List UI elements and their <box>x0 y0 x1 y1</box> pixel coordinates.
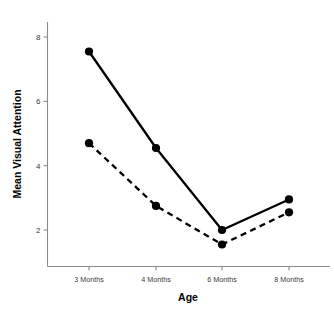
y-tick-label: 8 <box>36 33 41 42</box>
x-tick-label: 6 Months <box>207 275 237 284</box>
data-point-marker <box>152 202 160 210</box>
chart-canvas: 2468 3 Months4 Months6 Months8 Months Me… <box>0 0 334 317</box>
y-axis-tick-labels: 2468 <box>36 33 41 235</box>
x-axis-tick-labels: 3 Months4 Months6 Months8 Months <box>74 275 304 284</box>
x-axis-ticks <box>89 267 289 271</box>
x-tick-label: 3 Months <box>74 275 104 284</box>
line-chart: 2468 3 Months4 Months6 Months8 Months Me… <box>0 0 334 317</box>
x-axis-title: Age <box>178 291 198 303</box>
data-point-markers <box>85 47 293 248</box>
y-axis-ticks <box>44 37 48 230</box>
data-point-marker <box>152 144 160 152</box>
y-axis-title: Mean Visual Attention <box>11 89 23 198</box>
data-point-marker <box>85 139 93 147</box>
data-point-marker <box>218 226 226 234</box>
x-tick-label: 8 Months <box>274 275 304 284</box>
y-tick-label: 2 <box>36 226 41 235</box>
series-line-dashed-series <box>89 143 289 244</box>
y-tick-label: 6 <box>36 97 41 106</box>
data-point-marker <box>285 208 293 216</box>
y-tick-label: 4 <box>36 162 41 171</box>
data-point-marker <box>85 47 93 55</box>
x-tick-label: 4 Months <box>141 275 171 284</box>
data-series-layer <box>89 51 289 244</box>
data-point-marker <box>218 240 226 248</box>
data-point-marker <box>285 195 293 203</box>
series-line-solid-series <box>89 51 289 230</box>
